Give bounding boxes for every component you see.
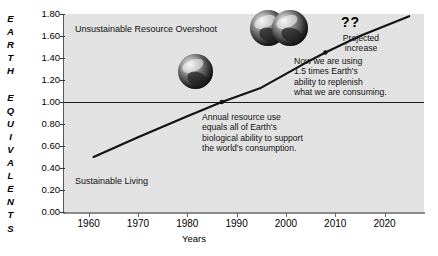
crossing-line-4: the world's consumption. [202,143,322,153]
current-point-marker [323,50,327,54]
now-line-2: 1.5 times Earth's [294,66,398,76]
earth-globe-icon [178,54,213,89]
earth-globe-half-icon [272,10,308,46]
now-line-1: Now we are using [294,56,398,66]
projected-increase-annotation: Projected increase [330,33,392,54]
overshoot-region-label: Unsustainable Resource Overshoot [75,24,217,34]
question-marks-label: ?? [341,14,360,30]
crossing-line-1: Annual resource use [202,112,322,122]
crossing-line-3: biological ability to support [202,133,322,143]
now-line-4: what we are consuming. [294,87,398,97]
now-line-3: ability to replenish [294,77,398,87]
current-usage-annotation: Now we are using 1.5 times Earth's abili… [294,56,398,98]
crossing-line-2: equals all of Earth's [202,122,322,132]
earth-equivalents-chart: E A R T H E Q U I V A L E N T S 0.000.20… [0,0,438,256]
projected-line-1: Projected [330,33,392,43]
projected-line-2: increase [330,43,392,53]
crossing-point-marker [220,100,224,104]
sustainable-region-label: Sustainable Living [75,176,148,186]
crossing-annotation: Annual resource use equals all of Earth'… [202,112,322,154]
